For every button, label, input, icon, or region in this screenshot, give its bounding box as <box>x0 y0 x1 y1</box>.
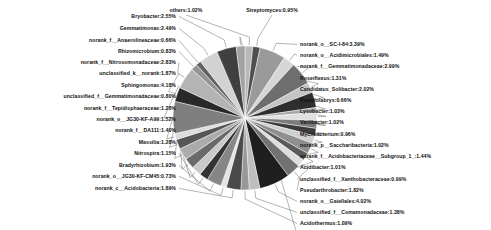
label-leader-line <box>275 184 297 201</box>
label-leader-line <box>257 15 272 46</box>
label-leader-line <box>179 51 193 66</box>
slice-label: Acidibacter:1.01% <box>300 164 346 170</box>
label-leader-line <box>294 172 299 191</box>
label-leader-line <box>179 188 233 198</box>
slice-label: norank_f__DA111:1.40% <box>115 127 176 133</box>
slice-label: norank_c__Acidobacteria:1.89% <box>95 185 176 191</box>
label-leader-line <box>178 62 185 77</box>
slice-label: Sphingomonas:4.18% <box>121 82 176 88</box>
slice-label: Lysobacter:1.03% <box>300 108 345 114</box>
slice-label: norank_f__Tepidisphaeraceae:1.28% <box>84 105 176 111</box>
slice-label: norank_f__Gemmatimonadaceae:2.99% <box>300 63 400 69</box>
slice-label: norank_f__Acidobacteriaceae__Subgroup_1_… <box>300 153 432 159</box>
label-leader-line <box>179 40 198 62</box>
slice-label: Massilia:1.28% <box>139 139 177 145</box>
slice-label: norank_p__Saccharibacteria:1.02% <box>300 142 389 148</box>
slice-label: norank_o__JG30-KF-A99:1.52% <box>97 116 177 122</box>
slice-label: Nitrospira:1.15% <box>134 150 176 156</box>
slice-label: norank_f__Anaerolineaceae:0.66% <box>89 37 176 43</box>
slice-label: norank_o__Acidimicrobiales:1.49% <box>300 52 389 58</box>
slice-label: unclassified_f__Comamonadaceae:1.38% <box>300 209 405 215</box>
label-leader-line <box>186 15 249 45</box>
label-leader-line <box>179 16 226 47</box>
slice-label: Bryobacter:2.55% <box>131 13 176 19</box>
slice-label: norank_f__Nitrosomonadaceae:2.83% <box>81 59 177 65</box>
slice-label: Pseudarthrobacter:1.82% <box>300 187 364 193</box>
pie-slice-group <box>173 46 317 190</box>
label-leader-line <box>290 54 297 60</box>
slice-label: Candidatus_Solibacter:2.02% <box>300 86 374 92</box>
slice-label: Bradyrhizobium:1.93% <box>119 162 176 168</box>
slice-label: unclassified_f__Gemmatimonadaceae:0.80% <box>64 93 177 99</box>
slice-label: Streptomyces:0.95% <box>246 7 298 13</box>
pie-chart-figure: others:1.02%Streptomyces:0.95%norank_o__… <box>0 0 491 230</box>
slice-label: Rhizomicrobium:0.83% <box>118 48 176 54</box>
pie-chart-canvas: others:1.02%Streptomyces:0.95%norank_o__… <box>0 0 491 230</box>
slice-label: Mycobacterium:0.96% <box>300 131 356 137</box>
slice-label: unclassified_k__norank:1.87% <box>99 70 176 76</box>
slice-label: Acidothermus:1.09% <box>300 220 353 226</box>
slice-label: Gemmatimonas:2.49% <box>120 25 177 31</box>
slice-label: norank_o__SC-I-84:3.39% <box>300 41 365 47</box>
slice-label: unclassified_f__Xanthobacteraceae:0.99% <box>300 176 407 182</box>
slice-label: Pseudolabrys:0.66% <box>300 97 352 103</box>
slice-label: norank_o__JG30-KF-CM45:0.73% <box>92 173 176 179</box>
slice-label: Variibacter:1.02% <box>300 119 344 125</box>
label-leader-line <box>273 43 297 50</box>
slice-label: Roseiflexus:1.31% <box>300 75 347 81</box>
label-leader-line <box>179 28 208 55</box>
slice-label: norank_o__Gaiellales:4.02% <box>300 198 371 204</box>
label-leader-line <box>255 190 297 212</box>
